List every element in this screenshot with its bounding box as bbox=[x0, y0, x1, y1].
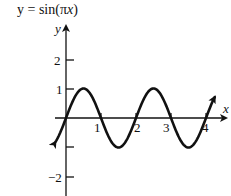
x-tick-label-1: 1 bbox=[94, 120, 101, 135]
x-tick-label-3: 3 bbox=[163, 120, 170, 135]
x-axis-label: x bbox=[222, 101, 229, 116]
y-tick-label-1: 1 bbox=[56, 82, 63, 97]
y-axis-label: y bbox=[53, 21, 61, 36]
y-tick-label-2: 2 bbox=[54, 53, 61, 68]
sine-plot: y x 2 1 −2 1 2 3 4 bbox=[0, 0, 231, 196]
x-ticks bbox=[101, 113, 206, 118]
y-tick-label-minus-2: −2 bbox=[48, 170, 62, 185]
